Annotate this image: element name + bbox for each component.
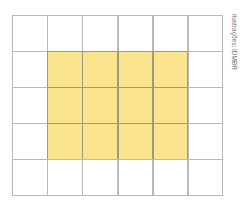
highlighted-cell xyxy=(118,123,154,160)
grid-cell xyxy=(12,123,48,160)
grid-cell xyxy=(188,123,224,160)
highlighted-cell xyxy=(47,51,83,88)
grid-cell xyxy=(47,15,83,52)
grid-cell xyxy=(82,15,118,52)
highlighted-cell xyxy=(153,87,189,124)
grid-cell xyxy=(188,15,224,52)
highlighted-cell xyxy=(153,51,189,88)
grid-cell xyxy=(118,15,154,52)
grid-cell xyxy=(118,159,154,196)
highlighted-cell xyxy=(153,123,189,160)
grid-cell xyxy=(12,15,48,52)
grid-cell xyxy=(188,87,224,124)
grid-cell xyxy=(47,159,83,196)
highlighted-cell xyxy=(47,123,83,160)
grid-cell xyxy=(12,159,48,196)
grid-figure xyxy=(12,15,223,195)
highlighted-cell xyxy=(47,87,83,124)
highlighted-cell xyxy=(82,123,118,160)
grid-cell xyxy=(153,159,189,196)
highlighted-cell xyxy=(118,51,154,88)
grid-cell xyxy=(12,87,48,124)
highlighted-cell xyxy=(82,87,118,124)
grid-cell xyxy=(188,159,224,196)
illustration-credit: Ilustrações: IDMBR xyxy=(226,14,238,78)
highlighted-cell xyxy=(82,51,118,88)
highlighted-cell xyxy=(118,87,154,124)
grid-cell xyxy=(153,15,189,52)
grid-cell xyxy=(82,159,118,196)
grid-cell xyxy=(12,51,48,88)
grid-cell xyxy=(188,51,224,88)
